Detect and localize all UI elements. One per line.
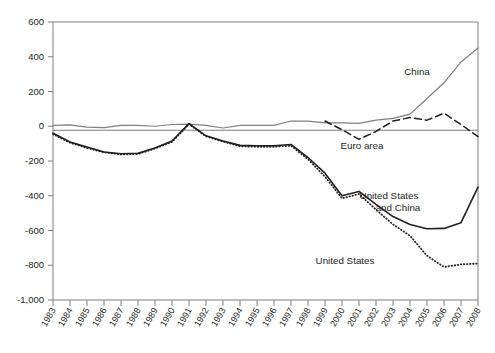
euro-area-label: Euro area	[340, 140, 384, 151]
y-axis-tick-label: -200	[25, 155, 44, 166]
line-chart: 6004002000-200-400-600-800-1,000 1983198…	[0, 0, 495, 353]
x-axis-tick-label: 1988	[124, 306, 143, 328]
series-line-china	[53, 48, 478, 128]
x-axis-tick-label: 2005	[413, 306, 432, 328]
y-axis-tick-marks	[48, 22, 53, 300]
x-axis-tick-label: 1996	[260, 306, 279, 328]
united-states-label: United States	[316, 255, 375, 266]
series-annotations-group: ChinaEuro areaUnited Statesand ChinaUnit…	[316, 66, 431, 266]
x-axis-tick-marks	[53, 300, 478, 306]
y-axis-tick-label: 400	[28, 51, 44, 62]
us-and-china-label-line2: and China	[376, 202, 421, 213]
y-axis-tick-label: -400	[25, 190, 44, 201]
x-axis-tick-label: 1991	[175, 306, 194, 328]
y-axis-tick-label: 200	[28, 86, 44, 97]
x-axis-tick-label: 1983	[39, 306, 58, 328]
x-axis-tick-label: 1989	[141, 306, 160, 328]
x-axis-tick-label: 1990	[158, 306, 177, 328]
x-axis-tick-label: 1993	[209, 306, 228, 328]
x-axis-tick-label: 2001	[345, 306, 364, 328]
x-axis-tick-label: 1984	[56, 306, 75, 328]
x-axis-tick-label: 2007	[447, 306, 466, 328]
y-axis-tick-label: -600	[25, 225, 44, 236]
y-axis-tick-label: -800	[25, 259, 44, 270]
y-axis-tick-label: 600	[28, 16, 44, 27]
x-axis-tick-label: 2003	[379, 306, 398, 328]
x-axis-tick-label: 2004	[396, 306, 415, 328]
china-label: China	[404, 66, 430, 77]
series-line-euro-area	[325, 113, 478, 139]
x-axis-tick-label: 1994	[226, 306, 245, 328]
x-axis-tick-label: 2006	[430, 306, 449, 328]
us-and-china-label-line1: United States	[360, 190, 419, 201]
y-axis-tick-label: -1,000	[17, 294, 44, 305]
data-series-group	[53, 48, 478, 267]
x-axis-tick-label: 1992	[192, 306, 211, 328]
x-axis-tick-label: 2000	[328, 306, 347, 328]
chart-container: 6004002000-200-400-600-800-1,000 1983198…	[0, 0, 495, 353]
x-axis-tick-label: 1998	[294, 306, 313, 328]
x-axis-tick-label: 1985	[73, 306, 92, 328]
x-axis-tick-label: 1997	[277, 306, 296, 328]
x-axis-tick-label: 1999	[311, 306, 330, 328]
x-axis-tick-labels: 1983198419851986198719881989199019911992…	[39, 306, 483, 328]
x-axis-tick-label: 1987	[107, 306, 126, 328]
x-axis-tick-label: 1986	[90, 306, 109, 328]
x-axis-tick-label: 1995	[243, 306, 262, 328]
y-axis-tick-labels: 6004002000-200-400-600-800-1,000	[17, 16, 44, 305]
y-axis-tick-label: 0	[39, 120, 44, 131]
x-axis-tick-label: 2002	[362, 306, 381, 328]
x-axis-tick-label: 2008	[464, 306, 483, 328]
